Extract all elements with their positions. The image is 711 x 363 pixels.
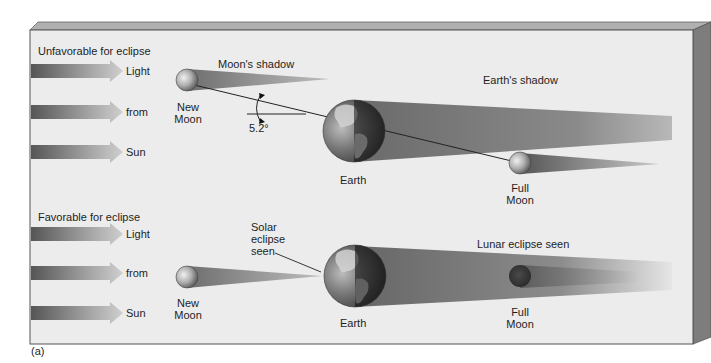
full-moon-label-bottom: Full Moon xyxy=(506,306,534,330)
solar-eclipse-line2: eclipse xyxy=(251,233,285,245)
new-moon-label-top: New Moon xyxy=(173,101,203,125)
angle-label: 5.2° xyxy=(249,122,269,134)
new-moon-label-line1: New xyxy=(173,297,203,309)
eclipse-diagram: Unfavorable for eclipse Light from Sun M… xyxy=(0,0,711,363)
solar-eclipse-line1: Solar xyxy=(251,221,285,233)
solar-eclipse-line3: seen xyxy=(251,245,285,257)
arrow-label-light-bottom: Light xyxy=(126,228,150,240)
arrow-label-from-top: from xyxy=(126,106,148,118)
unfavorable-title: Unfavorable for eclipse xyxy=(38,45,151,57)
arrow-label-light-top: Light xyxy=(126,65,150,77)
full-moon-label-line2: Moon xyxy=(506,194,534,206)
full-moon-eclipsed xyxy=(509,265,531,287)
panel-bevel-top xyxy=(30,22,711,30)
new-moon-bottom xyxy=(176,266,198,288)
moon-shadow-label: Moon's shadow xyxy=(218,58,294,70)
full-moon-label-line1: Full xyxy=(506,306,534,318)
new-moon-label-bottom: New Moon xyxy=(173,297,203,321)
new-moon-label-line2: Moon xyxy=(173,309,203,321)
sun-arrows-top xyxy=(31,60,123,163)
full-moon-label-line1: Full xyxy=(506,182,534,194)
panel-bevel-side xyxy=(693,22,711,344)
new-moon-label-line2: Moon xyxy=(173,113,203,125)
arrow-label-sun-bottom: Sun xyxy=(126,307,146,319)
full-moon-label-top: Full Moon xyxy=(506,182,534,206)
earth-shadow-label: Earth's shadow xyxy=(483,74,558,86)
figure-label: (a) xyxy=(31,345,44,357)
favorable-title: Favorable for eclipse xyxy=(38,211,140,223)
new-moon-label-line1: New xyxy=(173,101,203,113)
full-moon-label-line2: Moon xyxy=(506,318,534,330)
earth-label-bottom: Earth xyxy=(340,317,366,329)
solar-eclipse-label: Solar eclipse seen xyxy=(251,221,285,257)
arrow-label-from-bottom: from xyxy=(126,267,148,279)
full-moon-top xyxy=(509,152,531,174)
sun-arrows-bottom xyxy=(31,223,123,324)
earth-label-top: Earth xyxy=(340,174,366,186)
arrow-label-sun-top: Sun xyxy=(126,146,146,158)
new-moon-top xyxy=(176,69,198,91)
lunar-eclipse-label: Lunar eclipse seen xyxy=(477,238,569,250)
